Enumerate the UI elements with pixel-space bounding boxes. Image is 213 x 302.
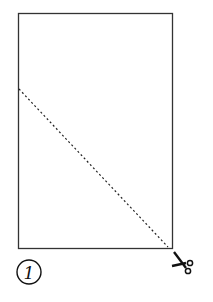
- folding-diagram: [0, 0, 213, 302]
- paper-sheet: [19, 14, 173, 249]
- scissors-icon: [172, 252, 193, 274]
- step-number: 1: [16, 260, 42, 286]
- cut-line-dashed: [19, 89, 168, 247]
